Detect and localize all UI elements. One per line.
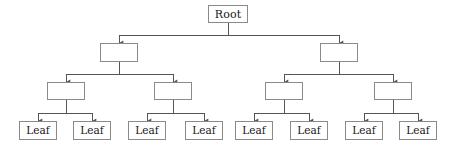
tree-node-c3 [265, 82, 303, 100]
tree-diagram: RootLeafLeafLeafLeafLeafLeafLeafLeaf [0, 0, 456, 150]
tree-node-l2: Leaf [73, 121, 111, 140]
tree-node-l1: Leaf [19, 121, 57, 140]
tree-node-l6: Leaf [290, 121, 328, 140]
tree-node-c1 [47, 82, 85, 100]
tree-node-l8: Leaf [399, 121, 437, 140]
tree-node-l5: Leaf [235, 121, 273, 140]
tree-node-label: Leaf [242, 125, 266, 136]
tree-node-label: Leaf [406, 125, 430, 136]
tree-node-label: Leaf [26, 125, 50, 136]
tree-node-b2 [320, 43, 358, 62]
tree-node-l7: Leaf [345, 121, 383, 140]
tree-node-l3: Leaf [128, 121, 166, 140]
tree-node-c4 [374, 82, 412, 100]
tree-node-label: Leaf [135, 125, 159, 136]
tree-node-c2 [154, 82, 192, 100]
tree-node-label: Leaf [192, 125, 216, 136]
tree-node-l4: Leaf [185, 121, 223, 140]
tree-node-label: Root [215, 8, 241, 19]
tree-node-label: Leaf [80, 125, 104, 136]
tree-node-b1 [100, 43, 138, 62]
tree-node-label: Leaf [297, 125, 321, 136]
tree-node-label: Leaf [352, 125, 376, 136]
tree-node-root: Root [208, 5, 248, 23]
